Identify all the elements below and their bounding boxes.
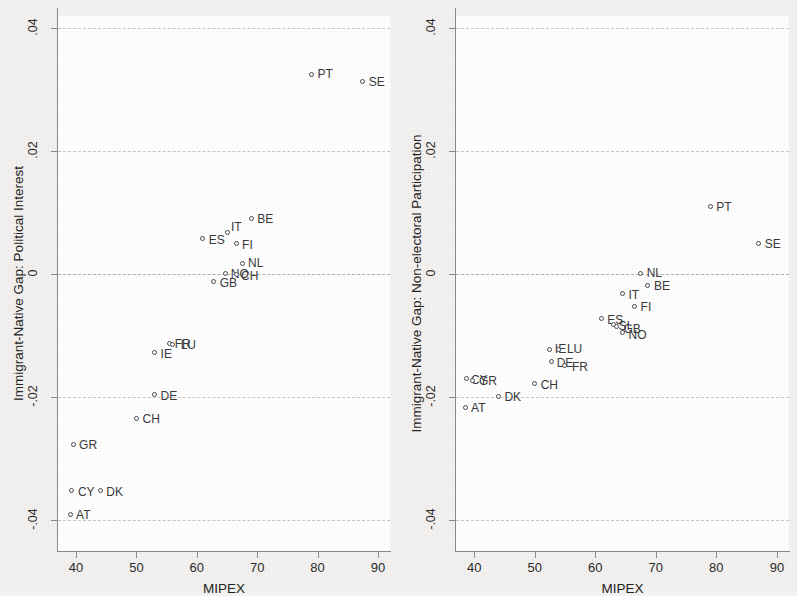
panel-nonelectoral-participation: Immigrant-Native Gap: Non-electoral Part… — [397, 0, 797, 590]
x-axis-title-left: MIPEX — [58, 581, 390, 596]
data-point-marker — [708, 204, 713, 209]
y-tick-right — [449, 397, 455, 398]
data-point-label: DE — [161, 390, 178, 402]
data-point-label: BE — [257, 213, 273, 225]
data-point-marker — [223, 271, 228, 276]
y-tick-right — [449, 520, 455, 521]
data-point-label: NO — [629, 329, 647, 341]
y-tick-label-left: .04 — [26, 10, 40, 44]
x-tick-right — [595, 552, 596, 558]
y-tick-label-left: -.04 — [26, 502, 40, 536]
x-axis-title-right: MIPEX — [456, 581, 789, 596]
x-tick-left — [197, 552, 198, 558]
data-point-marker — [638, 271, 643, 276]
y-axis-title-left: Immigrant-Native Gap: Political Interest — [11, 16, 26, 551]
data-point-marker — [496, 394, 501, 399]
x-tick-label-left: 60 — [177, 560, 217, 575]
data-point-marker — [98, 488, 103, 493]
y-tick-right — [449, 151, 455, 152]
data-point-label: DK — [106, 486, 123, 498]
data-point-label: CY — [78, 486, 95, 498]
gridline-y-right — [456, 274, 789, 275]
y-tick-label-right: 0 — [424, 256, 438, 290]
x-tick-label-right: 40 — [454, 560, 494, 575]
data-point-label: NL — [647, 267, 662, 279]
x-tick-label-right: 50 — [515, 560, 555, 575]
x-tick-left — [257, 552, 258, 558]
data-point-marker — [68, 512, 73, 517]
data-point-marker — [632, 304, 637, 309]
y-tick-label-right: .02 — [424, 133, 438, 167]
x-tick-right — [777, 552, 778, 558]
gridline-y-right — [456, 151, 789, 152]
data-point-marker — [134, 416, 139, 421]
y-tick-label-right: .04 — [424, 10, 438, 44]
y-tick-label-left: 0 — [26, 256, 40, 290]
data-point-label: DK — [504, 391, 521, 403]
x-tick-left — [378, 552, 379, 558]
data-point-label: GB — [220, 277, 237, 289]
data-point-marker — [463, 405, 468, 410]
gridline-y-left — [58, 520, 390, 521]
y-tick-right — [449, 274, 455, 275]
y-tick-label-right: -.04 — [424, 502, 438, 536]
y-tick-right — [449, 28, 455, 29]
x-tick-label-right: 80 — [696, 560, 736, 575]
data-point-label: BE — [654, 280, 670, 292]
gridline-y-left — [58, 397, 390, 398]
data-point-label: IT — [231, 221, 242, 233]
data-point-label: PT — [716, 201, 731, 213]
data-point-marker — [225, 230, 230, 235]
x-tick-right — [716, 552, 717, 558]
data-point-label: FI — [641, 301, 652, 313]
x-tick-label-right: 90 — [757, 560, 797, 575]
y-tick-left — [51, 520, 57, 521]
data-point-label: SE — [765, 238, 781, 250]
data-point-marker — [599, 316, 604, 321]
y-tick-left — [51, 151, 57, 152]
y-tick-left — [51, 28, 57, 29]
y-axis-line-left — [57, 8, 58, 551]
data-point-label: PT — [318, 68, 333, 80]
data-point-marker — [614, 324, 619, 329]
y-tick-label-left: -.02 — [26, 379, 40, 413]
data-point-label: CH — [142, 413, 159, 425]
y-axis-title-right: Immigrant-Native Gap: Non-electoral Part… — [409, 16, 424, 551]
data-point-label: CH — [241, 270, 258, 282]
gridline-y-right — [456, 520, 789, 521]
gridline-y-left — [58, 151, 390, 152]
data-point-label: LU — [181, 339, 196, 351]
x-tick-right — [656, 552, 657, 558]
data-point-label: GR — [79, 439, 97, 451]
data-point-marker — [152, 350, 157, 355]
x-tick-label-right: 60 — [575, 560, 615, 575]
data-point-marker — [71, 442, 76, 447]
x-axis-line-left — [57, 551, 391, 552]
data-point-label: LU — [567, 343, 582, 355]
data-point-label: FI — [242, 239, 253, 251]
x-axis-line-right — [455, 551, 790, 552]
x-tick-label-left: 70 — [237, 560, 277, 575]
data-point-marker — [234, 241, 239, 246]
data-point-label: NL — [248, 257, 263, 269]
data-point-label: IE — [161, 348, 172, 360]
data-point-label: CH — [541, 379, 558, 391]
data-point-label: GR — [479, 375, 497, 387]
data-point-label: ES — [209, 234, 225, 246]
x-tick-right — [474, 552, 475, 558]
gridline-y-right — [456, 28, 789, 29]
x-tick-left — [76, 552, 77, 558]
x-tick-label-left: 50 — [116, 560, 156, 575]
x-tick-left — [136, 552, 137, 558]
y-tick-left — [51, 397, 57, 398]
panel-political-interest: Immigrant-Native Gap: Political Interest… — [0, 0, 400, 590]
x-tick-right — [535, 552, 536, 558]
x-tick-label-left: 90 — [358, 560, 398, 575]
x-tick-label-right: 70 — [636, 560, 676, 575]
plot-area-right — [456, 16, 789, 551]
y-tick-label-right: -.02 — [424, 379, 438, 413]
data-point-label: AT — [471, 402, 485, 414]
data-point-marker — [240, 261, 245, 266]
data-point-label: IT — [629, 289, 640, 301]
